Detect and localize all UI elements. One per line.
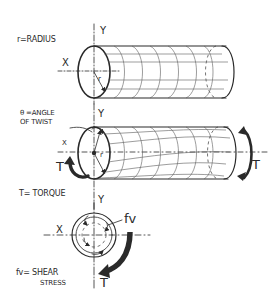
label-angle-line2: OF TWIST [20, 119, 52, 126]
cylinder-untwisted [58, 24, 234, 104]
torque-label-section: T [100, 276, 108, 289]
axis-label-x-middle: X [62, 140, 67, 147]
axis-label-y-middle: Y [98, 109, 104, 119]
label-shear-line2: STRESS [40, 280, 66, 287]
torsion-diagram [0, 0, 276, 308]
cylinder-twisted [58, 104, 270, 210]
label-radius: r=RADIUS [17, 36, 56, 44]
label-torque: T= TORQUE [19, 190, 65, 198]
torque-label-left: T [56, 160, 64, 173]
shear-symbol: fv [124, 212, 136, 225]
axis-label-x-bottom: X [56, 225, 63, 235]
axis-label-y-bottom: Y [98, 195, 104, 205]
axis-label-y-top: Y [100, 26, 106, 36]
axis-label-x-top: X [62, 58, 69, 68]
radius-symbol-middle: r [100, 152, 103, 159]
torque-label-right: T [252, 158, 260, 171]
label-shear-line1: fv= SHEAR [16, 269, 58, 277]
right-end [224, 127, 236, 179]
torque-arrow-right [244, 130, 252, 178]
right-end [222, 46, 234, 98]
label-angle-line1: θ =ANGLE [20, 110, 55, 117]
radius-symbol-top: r [98, 76, 101, 83]
